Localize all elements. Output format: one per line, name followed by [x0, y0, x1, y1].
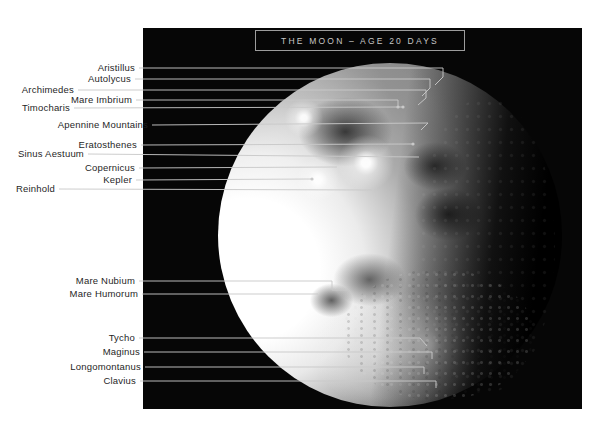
eastern-crater-texture [418, 97, 556, 393]
page-root: THE MOON – AGE 20 DAYS AristillusAutolyc… [0, 0, 605, 431]
label-clavius: Clavius [103, 374, 136, 387]
label-autolycus: Autolycus [88, 72, 131, 85]
label-timocharis: Timocharis [22, 101, 70, 114]
moon-photo: THE MOON – AGE 20 DAYS [143, 28, 582, 409]
label-eratosthenes: Eratosthenes [79, 138, 137, 151]
label-mare-nubium: Mare Nubium [76, 274, 135, 287]
label-mare-imbrium: Mare Imbrium [71, 93, 132, 106]
label-reinhold: Reinhold [16, 182, 55, 195]
label-archimedes: Archimedes [22, 83, 74, 96]
moon-disc [218, 63, 562, 407]
label-tycho: Tycho [109, 331, 135, 344]
label-apennine-mountains: Apennine Mountains [58, 118, 148, 131]
label-longomontanus: Longomontanus [70, 360, 141, 373]
label-sinus-aestuum: Sinus Aestuum [18, 147, 84, 160]
title-box: THE MOON – AGE 20 DAYS [255, 30, 465, 51]
label-maginus: Maginus [103, 345, 140, 358]
label-kepler: Kepler [103, 173, 132, 186]
photo-title: THE MOON – AGE 20 DAYS [281, 36, 439, 46]
label-mare-humorum: Mare Humorum [70, 287, 138, 300]
